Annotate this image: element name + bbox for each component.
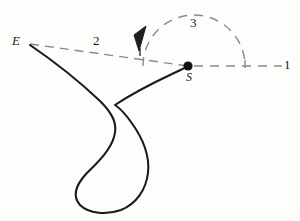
path-label-1: 1 [284, 58, 291, 71]
down-arrow-icon [134, 26, 146, 56]
figure-container: E S 1 2 3 [0, 0, 300, 221]
path-label-2: 2 [93, 34, 100, 47]
trajectory-diagram [0, 0, 300, 221]
end-point-label: E [12, 34, 20, 47]
solid-trajectory [30, 45, 188, 213]
path-label-3: 3 [190, 16, 197, 29]
start-point-label: S [186, 71, 192, 83]
